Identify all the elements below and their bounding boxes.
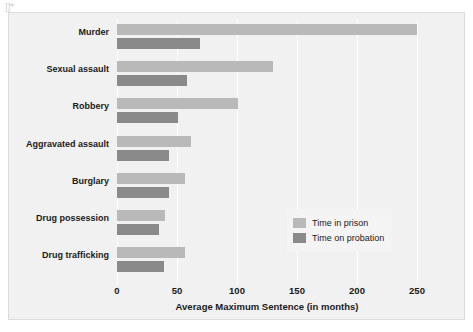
scan-artifact: ]]* <box>4 2 20 11</box>
category-label: Sexual assault <box>0 64 109 75</box>
legend-swatch-probation <box>293 233 306 243</box>
bar-probation <box>117 38 200 49</box>
legend-label-prison: Time in prison <box>312 218 368 228</box>
bar-group: Aggravated assault <box>117 135 462 165</box>
category-label: Murder <box>0 27 109 38</box>
x-tick-label-100: 100 <box>229 285 245 296</box>
category-label: Robbery <box>0 101 109 112</box>
bar-prison <box>117 173 185 184</box>
bar-probation <box>117 187 169 198</box>
bar-probation <box>117 224 159 235</box>
x-axis-title: Average Maximum Sentence (in months) <box>176 301 359 312</box>
chart-legend: Time in prison Time on probation <box>287 209 392 251</box>
bar-probation <box>117 150 169 161</box>
bar-probation <box>117 261 164 272</box>
category-label: Burglary <box>0 176 109 187</box>
bar-prison <box>117 136 191 147</box>
category-label: Drug possession <box>0 213 109 224</box>
x-tick-label-150: 150 <box>289 285 305 296</box>
x-tick-label-0: 0 <box>114 285 119 296</box>
category-label: Aggravated assault <box>0 139 109 150</box>
bar-prison <box>117 61 273 72</box>
bar-prison <box>117 247 185 258</box>
bar-group: Burglary <box>117 172 462 202</box>
legend-item-probation: Time on probation <box>293 230 384 245</box>
bar-prison <box>117 210 165 221</box>
legend-label-probation: Time on probation <box>312 233 384 243</box>
bar-group: Murder <box>117 23 462 53</box>
x-tick-label-250: 250 <box>409 285 425 296</box>
x-axis: Average Maximum Sentence (in months) 050… <box>117 281 417 321</box>
x-tick-label-50: 50 <box>172 285 183 296</box>
bar-probation <box>117 75 187 86</box>
bar-prison <box>117 24 417 35</box>
bar-prison <box>117 98 238 109</box>
bar-group: Robbery <box>117 97 462 127</box>
bar-probation <box>117 112 178 123</box>
bar-chart-figure: MurderSexual assaultRobberyAggravated as… <box>8 12 465 320</box>
legend-swatch-prison <box>293 218 306 228</box>
bar-group: Sexual assault <box>117 60 462 90</box>
legend-item-prison: Time in prison <box>293 215 384 230</box>
category-label: Drug trafficking <box>0 250 109 261</box>
x-tick-label-200: 200 <box>349 285 365 296</box>
